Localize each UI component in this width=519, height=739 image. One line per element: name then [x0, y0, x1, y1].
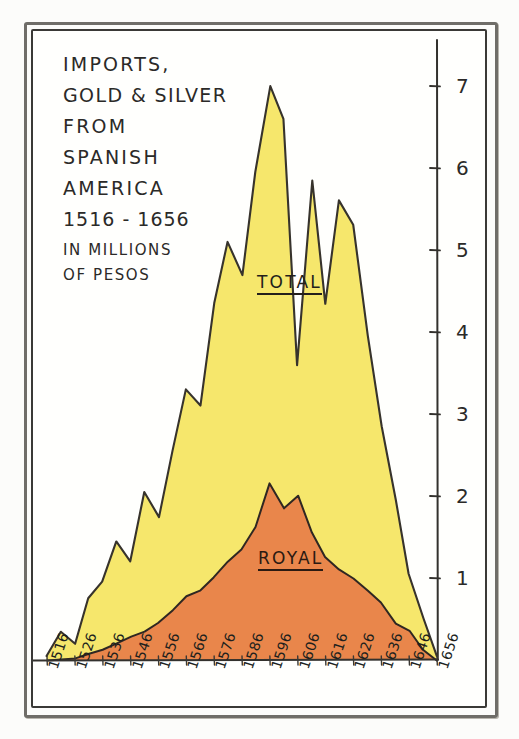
y-tick-label-3: 3: [456, 402, 469, 426]
y-tick-label-7: 7: [456, 74, 469, 98]
chart-svg: [33, 31, 481, 702]
x-axis-line: [33, 660, 438, 661]
y-tick-label-4: 4: [456, 320, 469, 344]
y-tick-label-6: 6: [456, 156, 469, 180]
plot-area: [33, 31, 481, 702]
y-tick-label-2: 2: [456, 484, 469, 508]
y-tick-label-1: 1: [456, 566, 469, 590]
y-axis-line: [437, 40, 438, 660]
y-tick-label-5: 5: [456, 238, 469, 262]
chart-page: IMPORTS, GOLD & SILVER FROM SPANISH AMER…: [0, 0, 519, 739]
